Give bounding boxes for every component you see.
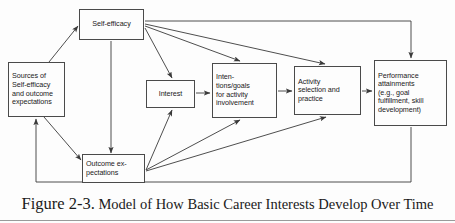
node-sources-label: Sources of Self-efficacy and outcome exp…: [12, 72, 53, 106]
edge-sources-to-outcome-expectations: [44, 117, 81, 160]
edge-sources-to-self-efficacy: [49, 26, 78, 62]
edge-self-efficacy-to-activity: [145, 24, 325, 64]
node-self-efficacy-label: Self-efficacy: [83, 20, 140, 29]
edge-self-efficacy-to-performance: [145, 21, 411, 58]
node-interest[interactable]: Interest: [146, 80, 195, 108]
edge-self-efficacy-to-interest: [145, 28, 172, 78]
node-outcome-expectations-label: Outcome ex- pectations: [86, 160, 127, 177]
node-intentions[interactable]: Inten- tions/goals for activity involvem…: [212, 63, 277, 118]
node-intentions-label: Inten- tions/goals for activity involvem…: [216, 73, 254, 107]
edge-outcome-expectations-to-activity: [146, 117, 326, 171]
node-performance[interactable]: Performance attainments (e.g., goal fulf…: [374, 60, 447, 126]
page-bottom-rule: [0, 220, 455, 221]
node-performance-label: Performance attainments (e.g., goal fulf…: [378, 72, 423, 115]
edge-outcome-expectations-to-intentions: [146, 120, 240, 170]
node-sources[interactable]: Sources of Self-efficacy and outcome exp…: [8, 62, 65, 117]
node-activity[interactable]: Activity selection and practice: [294, 66, 361, 115]
diagram-canvas: Self-efficacy Sources of Self-efficacy a…: [0, 0, 455, 190]
edge-outcome-expectations-to-interest: [146, 110, 172, 170]
node-activity-label: Activity selection and practice: [298, 78, 340, 104]
node-outcome-expectations[interactable]: Outcome ex- pectations: [82, 154, 145, 183]
figure-caption-title: Model of How Basic Career Interests Deve…: [95, 196, 434, 212]
figure-caption: Figure 2-3. Model of How Basic Career In…: [0, 191, 455, 217]
figure-caption-number: Figure 2-3.: [22, 194, 95, 213]
node-self-efficacy[interactable]: Self-efficacy: [79, 9, 144, 40]
figure-page: Self-efficacy Sources of Self-efficacy a…: [0, 0, 455, 223]
figure-caption-text: Figure 2-3. Model of How Basic Career In…: [22, 194, 434, 214]
node-interest-label: Interest: [150, 90, 191, 99]
edge-self-efficacy-to-intentions: [145, 26, 240, 61]
